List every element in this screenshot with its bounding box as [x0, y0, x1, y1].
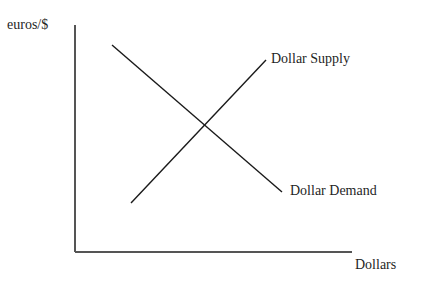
- dollar-demand-curve: [112, 45, 282, 192]
- dollar-demand-label: Dollar Demand: [290, 184, 377, 198]
- supply-demand-diagram: [0, 0, 424, 281]
- dollar-supply-label: Dollar Supply: [271, 52, 350, 66]
- x-axis-label: Dollars: [355, 258, 396, 272]
- dollar-supply-curve: [131, 60, 266, 203]
- y-axis-label: euros/$: [7, 18, 48, 32]
